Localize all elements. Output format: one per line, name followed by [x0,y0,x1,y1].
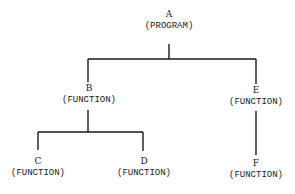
node-e-letter: E [229,84,283,96]
node-d-letter: D [117,155,171,167]
node-e: E (FUNCTION) [229,84,283,108]
node-a-kind: (PROGRAM) [145,20,194,32]
node-b: B (FUNCTION) [62,82,116,106]
node-c: C (FUNCTION) [11,155,65,179]
node-d-kind: (FUNCTION) [117,167,171,179]
node-e-kind: (FUNCTION) [229,96,283,108]
node-c-kind: (FUNCTION) [11,167,65,179]
node-b-letter: B [62,82,116,94]
node-f-letter: F [229,157,283,169]
node-b-kind: (FUNCTION) [62,94,116,106]
node-c-letter: C [11,155,65,167]
hierarchy-diagram: A (PROGRAM) B (FUNCTION) E (FUNCTION) C … [0,0,295,194]
node-f: F (FUNCTION) [229,157,283,181]
node-f-kind: (FUNCTION) [229,169,283,181]
node-d: D (FUNCTION) [117,155,171,179]
node-a-letter: A [145,8,194,20]
node-a: A (PROGRAM) [145,8,194,32]
